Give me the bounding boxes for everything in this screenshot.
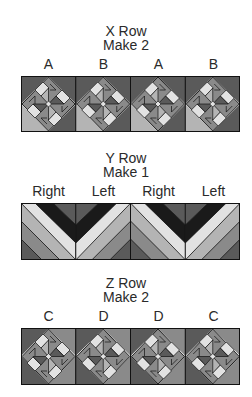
- y-row-strip: [21, 203, 240, 260]
- x-row-strip: [21, 76, 240, 132]
- x-row-label-1: A: [21, 57, 76, 71]
- x-row-subtitle: Make 2: [0, 38, 252, 52]
- z-row-label-2: D: [76, 309, 131, 323]
- z-row-strip: [21, 328, 240, 385]
- z-row-subtitle: Make 2: [0, 290, 252, 304]
- z-row-title: Z Row: [0, 276, 252, 290]
- y-row-subtitle: Make 1: [0, 165, 252, 179]
- y-row-label-1: Right: [21, 184, 76, 198]
- x-row-label-2: B: [76, 57, 131, 71]
- z-row-label-4: C: [186, 309, 241, 323]
- y-row-title: Y Row: [0, 151, 252, 165]
- x-row-title: X Row: [0, 24, 252, 38]
- y-row-label-3: Right: [131, 184, 186, 198]
- x-row-label-3: A: [131, 57, 186, 71]
- y-row-label-2: Left: [76, 184, 131, 198]
- z-row-label-1: C: [21, 309, 76, 323]
- y-row-label-4: Left: [186, 184, 241, 198]
- x-row-label-4: B: [186, 57, 241, 71]
- z-row-label-3: D: [131, 309, 186, 323]
